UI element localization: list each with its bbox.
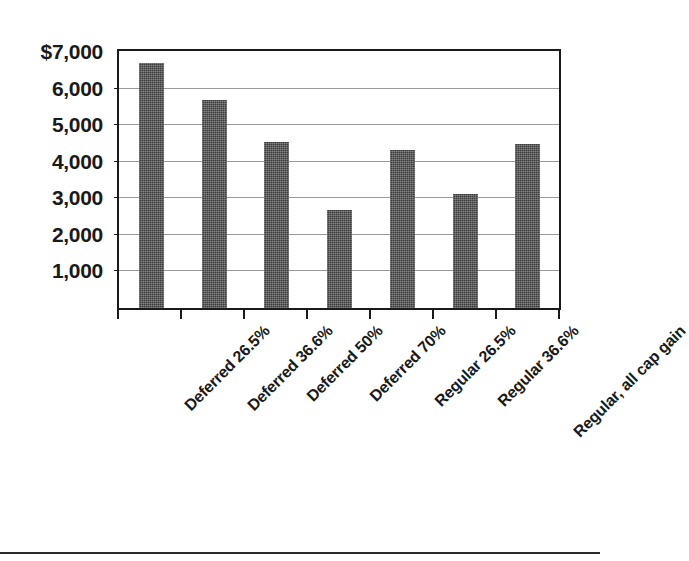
y-axis-tick-label: 1,000 <box>0 260 103 281</box>
y-tick-mark <box>114 234 119 235</box>
y-axis-tick-label: 2,000 <box>0 223 103 244</box>
x-tick-mark <box>495 310 497 319</box>
x-axis-label-regular-all-cap-gain: Regular, all cap gain <box>570 322 689 441</box>
y-axis-tick-label: $7,000 <box>0 41 103 62</box>
gridline-3000 <box>119 197 559 198</box>
bar-deferred-36-6 <box>202 100 227 308</box>
y-tick-mark <box>114 270 119 271</box>
plot-area <box>117 49 561 310</box>
y-tick-mark <box>114 88 119 89</box>
y-axis-tick-label: 3,000 <box>0 187 103 208</box>
bottom-divider <box>0 552 600 554</box>
x-tick-mark <box>432 310 434 319</box>
gridline-6000 <box>119 88 559 89</box>
x-tick-mark <box>369 310 371 319</box>
plot-inner <box>119 51 559 308</box>
y-tick-mark <box>114 197 119 198</box>
bar-deferred-50 <box>264 142 289 308</box>
x-tick-mark <box>243 310 245 319</box>
bar-deferred-26-5 <box>139 63 164 308</box>
gridline-5000 <box>119 124 559 125</box>
gridline-4000 <box>119 161 559 162</box>
x-tick-mark <box>558 310 560 319</box>
y-tick-mark <box>114 161 119 162</box>
x-tick-mark <box>180 310 182 319</box>
y-axis-tick-label: 5,000 <box>0 114 103 135</box>
y-axis-tick-label: 6,000 <box>0 77 103 98</box>
bar-regular-36-6 <box>453 194 478 308</box>
x-tick-mark <box>117 310 119 319</box>
y-tick-mark <box>114 124 119 125</box>
bar-regular-26-5 <box>390 150 415 308</box>
bar-deferred-70 <box>327 210 352 308</box>
x-tick-mark <box>306 310 308 319</box>
y-axis-tick-label: 4,000 <box>0 150 103 171</box>
bar-regular-all-cap-gain <box>515 144 540 308</box>
